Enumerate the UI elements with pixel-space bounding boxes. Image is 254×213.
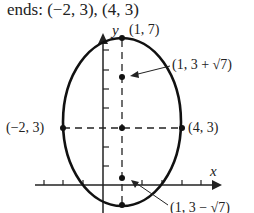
ellipse-diagram [0, 0, 254, 213]
focus-upper [119, 74, 125, 80]
x-axis-arrow-icon [212, 180, 222, 190]
y-axis-label: y [112, 22, 119, 39]
center [119, 125, 125, 131]
co-vertex-right [179, 125, 185, 131]
co-vertex-left [60, 125, 66, 131]
focus-lower [119, 175, 125, 181]
vertex-bottom [119, 202, 125, 208]
leader-upper [134, 66, 170, 75]
leader-upper-arrow-icon [130, 71, 139, 78]
label-left-end: (−2, 3) [6, 120, 44, 136]
ellipse-points [60, 35, 185, 208]
label-upper-focus: (1, 3 + √7) [172, 57, 232, 73]
y-axis-ticks [103, 50, 109, 166]
vertex-top [119, 35, 125, 41]
label-lower-focus: (1, 3 − √7) [170, 200, 230, 213]
label-right-end: (4, 3) [188, 120, 218, 136]
label-top-vertex: (1, 7) [129, 22, 159, 38]
x-axis-label: x [210, 163, 217, 180]
